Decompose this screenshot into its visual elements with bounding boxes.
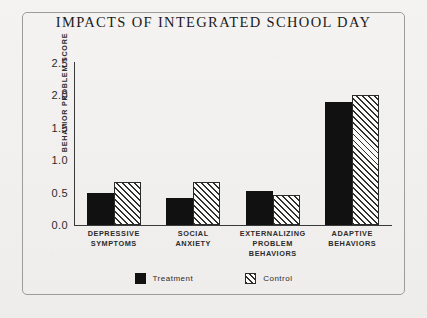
bar-control[interactable] (273, 195, 300, 225)
y-axis-tick-labels: 2.52.01.51.00.50.0 (40, 0, 68, 318)
legend-swatch-treatment-icon (135, 273, 146, 284)
bar-group: SOCIALANXIETY (154, 63, 234, 225)
bar-group: EXTERNALIZINGPROBLEMBEHAVIORS (233, 63, 313, 225)
y-tick-label: 0.5 (42, 187, 68, 199)
bar-pair (154, 63, 234, 225)
x-axis-category-label: ADAPTIVEBEHAVIORS (289, 229, 417, 249)
bar-treatment[interactable] (87, 193, 114, 225)
bar-control[interactable] (114, 182, 141, 225)
x-axis-line (74, 225, 392, 226)
bar-control[interactable] (193, 182, 220, 225)
legend-item-treatment[interactable]: Treatment (135, 273, 194, 284)
bar-control[interactable] (352, 95, 379, 225)
bar-pair (313, 63, 393, 225)
legend-item-control[interactable]: Control (245, 273, 292, 284)
page-background: IMPACTS OF INTEGRATED SCHOOL DAY BEHAVIO… (0, 0, 427, 318)
bar-group: ADAPTIVEBEHAVIORS (313, 63, 393, 225)
bar-pair (233, 63, 313, 225)
bar-group: DEPRESSIVESYMPTOMS (74, 63, 154, 225)
x-axis-category-line: BEHAVIORS (289, 239, 417, 249)
x-axis-category-line: ADAPTIVE (289, 229, 417, 239)
bar-treatment[interactable] (246, 191, 273, 225)
legend-swatch-control-icon (245, 273, 256, 284)
bar-treatment[interactable] (166, 198, 193, 225)
legend-label: Control (263, 274, 292, 283)
plot-area: DEPRESSIVESYMPTOMSSOCIALANXIETYEXTERNALI… (74, 63, 392, 225)
y-tick-label: 1.5 (42, 122, 68, 134)
bar-treatment[interactable] (325, 102, 352, 225)
chart-legend: TreatmentControl (0, 273, 427, 284)
x-axis-category-line: BEHAVIORS (209, 249, 337, 259)
legend-label: Treatment (153, 274, 194, 283)
y-tick-label: 1.0 (42, 154, 68, 166)
y-tick-label: 2.0 (42, 89, 68, 101)
bar-pair (74, 63, 154, 225)
y-tick-label: 2.5 (42, 57, 68, 69)
